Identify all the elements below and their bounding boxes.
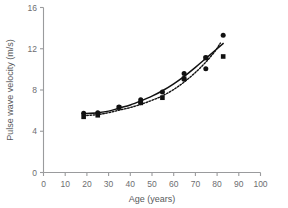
y-tick-label: 12 [28, 44, 38, 54]
data-points [81, 33, 226, 119]
x-tick-label: 50 [147, 179, 157, 189]
data-point-square [117, 105, 122, 110]
data-point-square [182, 76, 187, 81]
x-tick-label: 80 [212, 179, 222, 189]
y-axis-title: Pulse wave velocity (m/s) [5, 39, 15, 141]
x-tick-label: 40 [126, 179, 136, 189]
data-point-square [95, 113, 100, 118]
x-tick-label: 100 [253, 179, 267, 189]
fitted-curves [84, 43, 224, 116]
data-point-circle [160, 90, 165, 95]
y-tick-label: 8 [32, 85, 37, 95]
data-point-circle [203, 66, 208, 71]
x-tick-label: 30 [104, 179, 114, 189]
y-tick-label: 4 [32, 126, 37, 136]
chart-canvas: 0481216 0102030405060708090100 Age (year… [0, 0, 288, 208]
y-tick-label: 0 [32, 168, 37, 178]
x-axis-title: Age (years) [129, 194, 176, 204]
axes [44, 8, 261, 173]
data-point-circle [182, 71, 187, 76]
data-point-circle [221, 33, 226, 38]
data-point-square [221, 54, 226, 59]
x-tick-label: 60 [169, 179, 179, 189]
data-point-square [138, 101, 143, 106]
data-point-square [160, 95, 165, 100]
x-tick-label: 70 [191, 179, 201, 189]
x-tick-label: 10 [60, 179, 70, 189]
x-axis-ticks: 0102030405060708090100 [41, 173, 268, 189]
y-tick-label: 16 [28, 3, 38, 13]
data-point-square [81, 115, 86, 120]
x-tick-label: 20 [82, 179, 92, 189]
x-tick-label: 0 [41, 179, 46, 189]
y-axis-ticks: 0481216 [28, 3, 44, 178]
dotted-fit-curve [84, 43, 221, 116]
solid-fit-curve [84, 43, 224, 114]
x-tick-label: 90 [234, 179, 244, 189]
pulse-wave-velocity-chart: 0481216 0102030405060708090100 Age (year… [0, 0, 288, 208]
data-point-square [204, 56, 209, 61]
